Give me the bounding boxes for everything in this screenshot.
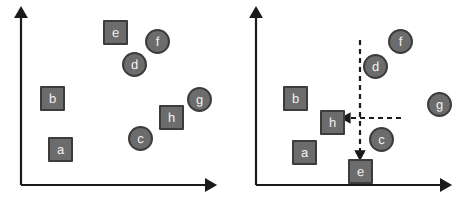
node-label: g (436, 98, 443, 111)
node-h[interactable]: h (159, 105, 184, 130)
node-label: f (156, 35, 160, 48)
node-label: f (399, 35, 403, 48)
node-d[interactable]: d (122, 52, 147, 77)
node-h[interactable]: h (320, 110, 345, 135)
node-e[interactable]: e (348, 159, 373, 184)
node-b[interactable]: b (40, 86, 65, 111)
node-label: b (292, 92, 299, 105)
node-label: c (378, 133, 385, 146)
node-c[interactable]: c (369, 127, 394, 152)
node-label: e (112, 26, 119, 39)
node-label: a (57, 143, 64, 156)
node-d[interactable]: d (363, 54, 388, 79)
node-label: d (372, 60, 379, 73)
node-label: a (301, 146, 308, 159)
node-label: h (329, 116, 336, 129)
node-g[interactable]: g (427, 92, 452, 117)
node-g[interactable]: g (187, 87, 212, 112)
node-label: b (49, 92, 56, 105)
scatter-comparison-figure: e f d b g h c a (0, 0, 471, 201)
before-panel: e f d b g h c a (0, 0, 236, 201)
node-f[interactable]: f (145, 29, 170, 54)
node-a[interactable]: a (292, 140, 317, 165)
node-label: c (137, 132, 144, 145)
node-c[interactable]: c (128, 126, 153, 151)
node-f[interactable]: f (388, 29, 413, 54)
node-b[interactable]: b (283, 86, 308, 111)
node-label: g (196, 93, 203, 106)
node-e[interactable]: e (103, 20, 128, 45)
node-a[interactable]: a (48, 137, 73, 162)
after-panel: f d b g h c a e (235, 0, 471, 201)
node-label: d (131, 58, 138, 71)
node-label: h (168, 111, 175, 124)
node-label: e (357, 165, 364, 178)
